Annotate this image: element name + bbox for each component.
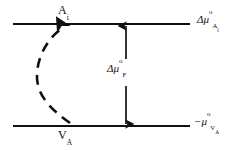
lower-energy-subsubscript: A: [215, 129, 219, 135]
upper-energy-symbol: Δμ: [197, 13, 209, 25]
lower-energy-superscript: o: [207, 110, 210, 117]
formation-energy-label: ΔμoF: [105, 62, 128, 75]
upper-energy-superscript: o: [209, 8, 212, 15]
upper-species-subscript: i: [67, 13, 69, 22]
upper-level-energy-label: ΔμoAi: [197, 14, 219, 27]
lower-energy-subscript: VA: [210, 124, 219, 131]
lower-level-species-label: VA: [58, 129, 72, 141]
energy-level-diagram: Ai VA ΔμoAi −μoVA ΔμoF: [0, 0, 243, 151]
upper-species-symbol: A: [58, 3, 67, 17]
gap-energy-subscript: F: [122, 71, 126, 78]
lower-energy-symbol: −μ: [194, 115, 207, 127]
lower-level-energy-label: −μoVA: [194, 116, 219, 129]
upper-energy-subsubscript: i: [217, 27, 218, 33]
lower-species-subscript: A: [67, 138, 72, 147]
upper-level-species-label: Ai: [58, 4, 69, 16]
gap-energy-symbol: Δμ: [107, 62, 119, 74]
dashed-transition-curve: [37, 27, 70, 123]
gap-energy-superscript: o: [119, 57, 122, 64]
lower-species-symbol: V: [58, 128, 67, 142]
upper-energy-subscript: Ai: [212, 22, 218, 29]
